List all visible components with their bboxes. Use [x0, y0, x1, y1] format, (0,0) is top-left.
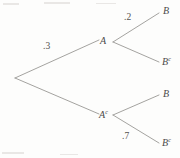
branch-ac-to-b: [113, 95, 159, 115]
scan-artifact: [96, 3, 116, 4]
branch-label-root-to-a: .3: [43, 42, 50, 52]
branch-label-a-to-b: .2: [124, 13, 131, 23]
branch-root-to-a: [15, 40, 99, 78]
scan-artifact: [60, 154, 78, 155]
node-a: A: [100, 36, 106, 46]
branch-a-to-b: [113, 13, 159, 42]
node-a-text: A: [100, 35, 106, 46]
node-b-bottom: B: [163, 89, 169, 99]
node-a-complement: Ac: [99, 109, 108, 120]
probability-tree-figure: A Ac B Bc B Bc .3 .2 .7: [0, 0, 180, 158]
scan-artifact: [2, 152, 24, 154]
branch-label-ac-to-bc: .7: [122, 132, 129, 142]
scan-artifact: [44, 2, 70, 4]
scan-artifact: [3, 3, 19, 5]
node-b-top: B: [163, 6, 169, 16]
branch-root-to-ac: [15, 78, 99, 114]
branch-a-to-bc: [113, 42, 159, 62]
node-b-top-text: B: [163, 5, 169, 16]
node-b-bottom-text: B: [163, 88, 169, 99]
node-bc-top-superscript: c: [168, 56, 171, 62]
node-bc-top: Bc: [162, 56, 171, 67]
node-bc-bottom: Bc: [162, 137, 171, 148]
tree-branch-lines: [0, 0, 180, 158]
branch-ac-to-bc: [113, 115, 159, 143]
node-a-complement-superscript: c: [105, 109, 108, 115]
node-bc-bottom-superscript: c: [168, 137, 171, 143]
